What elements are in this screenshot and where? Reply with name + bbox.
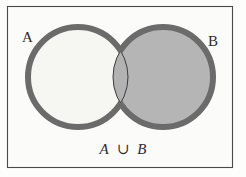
caption-union-operator: ∪	[117, 141, 130, 157]
svg-text:A ∪ B: A ∪ B	[99, 140, 147, 157]
venn-diagram-canvas: A B A ∪ B	[0, 0, 246, 177]
set-a-label: A	[22, 29, 33, 45]
caption-left-operand: A	[99, 141, 110, 157]
caption-right-operand: B	[137, 141, 146, 157]
set-b-label: B	[208, 33, 218, 49]
venn-figure: A B A ∪ B	[0, 0, 246, 177]
union-caption: A ∪ B	[99, 140, 147, 157]
